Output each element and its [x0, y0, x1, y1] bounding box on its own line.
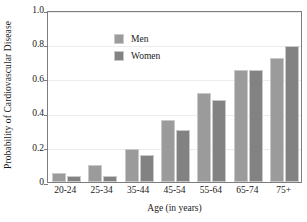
y-axis-tick-label: 0.4: [18, 109, 44, 119]
x-axis-tick-label: 75+: [266, 186, 302, 196]
chart-figure: Probability of Cardiovascular Disease 00…: [0, 0, 307, 222]
x-axis-tick-label: 65-74: [229, 186, 265, 196]
bar-women-35-44: [140, 155, 154, 182]
x-axis-tick-label: 45-54: [156, 186, 192, 196]
y-axis-tick-label: 0.8: [18, 40, 44, 50]
bar-women-25-34: [103, 176, 117, 182]
bar-group: [267, 12, 303, 182]
x-axis-tick-labels: 20-2425-3435-4445-5455-6465-7475+: [47, 186, 302, 200]
legend-swatch-women-icon: [114, 51, 124, 61]
y-axis-label-text: Probability of Cardiovascular Disease: [3, 21, 13, 169]
x-axis-tick-label: 20-24: [47, 186, 83, 196]
legend-item-women: Women: [114, 49, 160, 63]
bar-women-75+: [285, 46, 299, 182]
bar-women-20-24: [67, 176, 81, 182]
legend-label-men: Men: [131, 34, 148, 44]
y-axis-tick-label: 1.0: [18, 6, 44, 16]
chart-legend: Men Women: [114, 32, 160, 66]
bar-women-65-74: [249, 70, 263, 182]
y-axis-tick-label: 0.6: [18, 75, 44, 85]
bar-group: [194, 12, 230, 182]
bar-men-45-54: [161, 120, 175, 182]
bar-men-55-64: [197, 93, 211, 182]
y-axis-tick-mark: [44, 184, 48, 185]
y-axis-tick-label: 0.2: [18, 144, 44, 154]
bar-women-55-64: [212, 100, 226, 182]
bar-men-65-74: [234, 70, 248, 182]
bar-men-35-44: [125, 149, 139, 182]
x-axis-label: Age (in years): [47, 203, 302, 213]
bar-women-45-54: [176, 130, 190, 182]
legend-item-men: Men: [114, 32, 160, 46]
bar-group: [230, 12, 266, 182]
bar-men-20-24: [52, 173, 66, 182]
plot-area: Men Women: [47, 11, 302, 183]
legend-swatch-men-icon: [114, 34, 124, 44]
bar-men-75+: [270, 58, 284, 182]
y-axis-tick-labels: 00.20.40.60.81.0: [14, 0, 44, 222]
bar-group: [157, 12, 193, 182]
bar-series-container: [48, 12, 301, 182]
y-axis-tick-label: 0: [18, 178, 44, 188]
bar-men-25-34: [88, 165, 102, 182]
x-axis-tick-label: 35-44: [120, 186, 156, 196]
bar-group: [48, 12, 84, 182]
x-axis-tick-label: 55-64: [193, 186, 229, 196]
legend-label-women: Women: [131, 51, 160, 61]
x-axis-tick-label: 25-34: [83, 186, 119, 196]
